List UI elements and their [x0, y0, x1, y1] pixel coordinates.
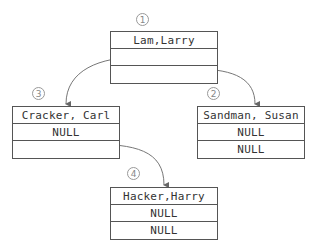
order-badge-1: 1	[136, 13, 149, 26]
tree-node-hacker-harry: Hacker,Harry NULL NULL	[110, 187, 218, 240]
tree-node-sandman-susan: Sandman, Susan NULL NULL	[197, 106, 305, 159]
tree-node-lam-larry: Lam,Larry	[110, 31, 218, 84]
node-name: Sandman, Susan	[198, 107, 304, 124]
left-pointer: NULL	[198, 124, 304, 141]
right-pointer	[13, 141, 119, 158]
tree-node-cracker-carl: Cracker, Carl NULL	[12, 106, 120, 159]
order-badge-3: 3	[32, 87, 45, 100]
right-pointer: NULL	[198, 141, 304, 158]
node-name: Lam,Larry	[111, 32, 217, 49]
order-badge-4: 4	[127, 167, 140, 180]
node-name: Hacker,Harry	[111, 188, 217, 205]
left-pointer: NULL	[111, 205, 217, 222]
right-pointer	[111, 66, 217, 83]
left-pointer	[111, 49, 217, 66]
left-pointer: NULL	[13, 124, 119, 141]
right-pointer: NULL	[111, 222, 217, 239]
order-badge-2: 2	[207, 87, 220, 100]
node-name: Cracker, Carl	[13, 107, 119, 124]
